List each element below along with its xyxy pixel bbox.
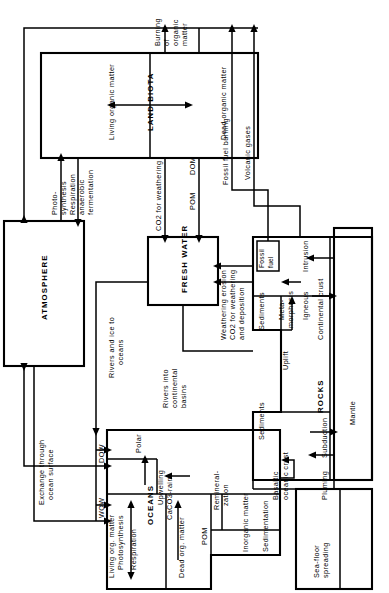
label-oceanic-crust: oceanic crust [281,452,290,500]
label-fresh-water: FRESH WATER [180,225,189,293]
label-fossil-fuel-2: fuel [267,256,274,268]
label-caco3-rain: CaCO3-rain [165,477,174,520]
label-co2-for-weathering: CO2 for weathering [154,161,163,231]
line-volcanic-gases [254,28,300,237]
label-fossil-fuel-1: Fossil [258,249,265,268]
label-metamorphosis-1: Meta- [277,299,286,320]
arrow-pom-dom [195,235,202,243]
label-mantle: Mantle [348,401,357,425]
label-photosynthesis-2: synthesis [59,181,68,215]
box-seafloor-spreading [296,489,372,589]
arrow-pluming [308,451,316,458]
label-burning-3: organic [171,19,180,46]
arrow-respiration [74,219,81,227]
arrow-ocean-photosynthesis [127,500,134,508]
arrow-atmos-loop-in [20,215,27,223]
arrow-biota-right [185,101,193,108]
label-sediments-1: Sediments [257,292,266,330]
label-ocean-photosynthesis: Photosynthesis [116,515,125,570]
label-co2-weath-dep-2: and deposition [237,287,246,340]
label-respiration-1: Respiration [68,174,77,215]
label-ocean-dead: Dead org. matter [177,517,186,578]
label-rivers-into-3: basins [179,385,188,408]
diagram-canvas: ATMOSPHERE Living organic matter Dead or… [0,0,389,593]
label-continental-crust: Continental crust [316,278,325,340]
box-mantle [334,228,372,480]
arrow-co2-weathering [161,235,168,243]
label-pom-ocean: POM [200,527,209,545]
label-igneous: Igneous [301,291,310,320]
label-weathering-erosion: Weathering erosion [219,270,228,340]
label-upwelling: Upwelling [156,470,165,505]
label-rivers-into-2: continental [170,368,179,408]
label-pluming: Pluming [320,471,329,500]
label-respiration-3: fermentation [86,170,95,215]
label-subduction: Subduction [320,418,329,458]
label-rocks: ROCKS [316,379,325,413]
label-remineralization-2: zation [221,484,230,506]
label-fossil-fuel-burning: Fossil fuel burning [221,118,230,185]
label-land-biota: LAND BIOTA [146,73,155,132]
label-oceans: OCEANS [146,485,155,525]
label-ocean-respiration: Respiration [129,529,138,570]
label-rivers-ice-1: Rivers and ice to [107,317,116,378]
box-rocks [253,237,372,480]
label-burning-1: Burning [153,18,162,46]
label-rivers-into-1: Rivers into [161,369,170,408]
label-exchange-1: Exchange through [37,439,46,505]
arrow-metamorphosis [281,278,289,285]
label-living-organic-matter: Living organic matter [107,64,116,140]
label-seafloor-1: Sea-floor [312,545,321,578]
label-dow: DOW [97,444,106,463]
label-dom-land: DOM [188,157,197,175]
label-uplift: Uplift [281,351,290,370]
arrow-ocean-respiration [127,572,134,580]
arrow-pom-ocean [174,500,181,508]
label-atmosphere: ATMOSPHERE [40,255,49,320]
label-ocean-living-1: Living org. matter [107,514,116,578]
label-respiration-2: anaerobic [77,179,86,215]
label-polar: Polar [134,434,143,453]
label-burning-2: of [162,39,171,46]
label-co2-weath-dep-1: CO2 for weathering [228,270,237,340]
label-sedimentation: Sedimentation [261,500,270,552]
label-exchange-2: ocean surface [46,449,55,500]
label-volcanic-gases: Volcanic gases [243,126,252,180]
label-ocean-inorganic: Inorganic matter [241,493,250,552]
label-intrusion: Intrusion [301,240,310,272]
label-metamorphosis-2: morphosis [286,291,295,328]
label-basaltic: Basaltic [271,471,280,500]
carbon-cycle-diagram: ATMOSPHERE Living organic matter Dead or… [0,0,389,593]
label-burning-4: matter [180,23,189,46]
label-seafloor-2: spreading [321,542,330,578]
label-remineralization-1: Remineral- [212,470,221,510]
label-rivers-ice-2: oceans [116,339,125,365]
label-photosynthesis-1: Photo- [50,191,59,215]
label-wow: WOW [97,497,106,518]
label-sediments-2: Sediments [257,402,266,440]
label-pom-land: POM [188,192,197,210]
